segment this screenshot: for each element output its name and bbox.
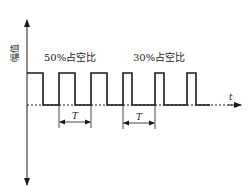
time-axis-label: t <box>229 92 233 102</box>
section-label-30: 30%占空比 <box>133 51 185 63</box>
square-wave <box>27 73 210 105</box>
duty-cycle-diagram: 50%占空比 30%占空比 T T t 幅值 <box>0 0 249 187</box>
y-axis-label: 幅值 <box>9 44 20 62</box>
section-label-50: 50%占空比 <box>44 51 96 63</box>
period-label: T <box>72 111 79 121</box>
period-label: T <box>136 112 143 122</box>
